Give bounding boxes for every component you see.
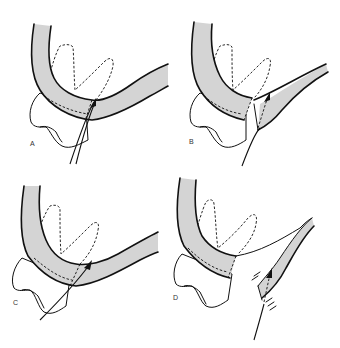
instrument-line (254, 304, 264, 340)
panel-label-d: D (173, 294, 178, 301)
panel-label-a: A (30, 140, 35, 147)
panel-a-drawing (0, 0, 170, 174)
panel-c: C (0, 174, 170, 348)
panel-b: B (170, 0, 340, 174)
panel-label-c: C (13, 299, 18, 306)
reflected-flap (258, 218, 314, 298)
panel-d: D (170, 174, 340, 348)
panel-label-b: B (189, 138, 194, 145)
panel-b-drawing (170, 0, 340, 174)
panel-c-drawing (0, 174, 170, 348)
panel-d-drawing (170, 174, 340, 348)
panel-a: A (0, 0, 170, 174)
